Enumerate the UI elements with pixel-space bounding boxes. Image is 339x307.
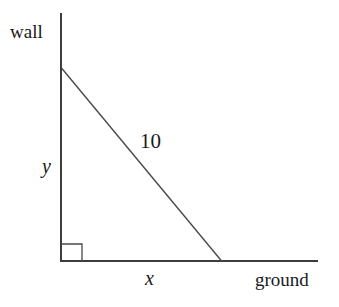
- ground-label: ground: [255, 270, 309, 289]
- geometry-figure: wall y 10 x ground: [0, 0, 339, 307]
- wall-label: wall: [10, 22, 43, 41]
- vertical-leg-label: y: [42, 156, 51, 176]
- figure-canvas: [0, 0, 339, 307]
- hypotenuse-length-label: 10: [140, 131, 161, 152]
- horizontal-leg-label: x: [145, 268, 154, 288]
